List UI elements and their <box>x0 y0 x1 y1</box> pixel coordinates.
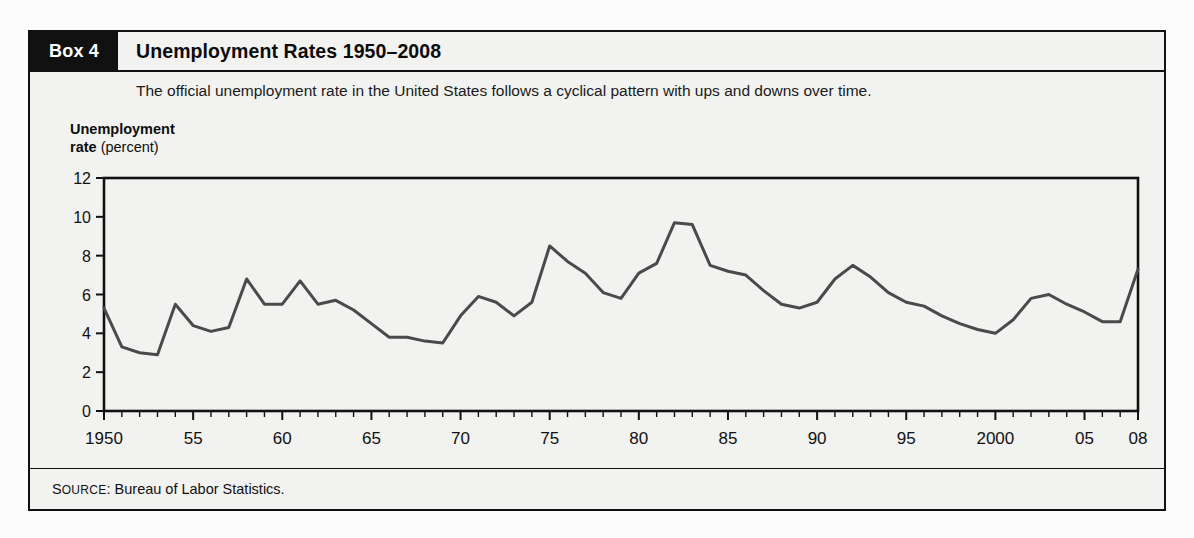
svg-text:75: 75 <box>540 429 559 448</box>
svg-text:95: 95 <box>897 429 916 448</box>
data-line-series <box>104 223 1138 355</box>
svg-text:85: 85 <box>719 429 738 448</box>
svg-text:8: 8 <box>82 248 91 265</box>
unemployment-line-chart: 024681012 195055606570758085909520000508 <box>30 32 1164 509</box>
source-label-rest: OURCE <box>62 483 107 497</box>
svg-text:0: 0 <box>82 403 91 420</box>
svg-text:55: 55 <box>184 429 203 448</box>
svg-text:80: 80 <box>629 429 648 448</box>
x-axis-ticks <box>104 411 1138 420</box>
svg-text:10: 10 <box>73 209 91 226</box>
svg-text:60: 60 <box>273 429 292 448</box>
svg-text:2: 2 <box>82 364 91 381</box>
box-container: Box 4 Unemployment Rates 1950–2008 The o… <box>28 30 1166 511</box>
svg-text:05: 05 <box>1075 429 1094 448</box>
svg-text:6: 6 <box>82 287 91 304</box>
scanned-page: Box 4 Unemployment Rates 1950–2008 The o… <box>0 0 1194 538</box>
svg-text:08: 08 <box>1129 429 1148 448</box>
source-colon: : <box>107 481 111 497</box>
source-value: Bureau of Labor Statistics. <box>115 481 285 497</box>
svg-text:12: 12 <box>73 170 91 187</box>
chart-area: 024681012 195055606570758085909520000508 <box>30 32 1164 509</box>
svg-text:70: 70 <box>451 429 470 448</box>
y-axis-tick-labels: 024681012 <box>73 170 91 420</box>
svg-text:65: 65 <box>362 429 381 448</box>
svg-text:4: 4 <box>82 325 91 342</box>
source-label-cap: S <box>52 481 62 497</box>
source-note: SOURCE: Bureau of Labor Statistics. <box>52 481 285 497</box>
x-axis-tick-labels: 195055606570758085909520000508 <box>85 429 1147 448</box>
svg-text:2000: 2000 <box>976 429 1014 448</box>
svg-text:90: 90 <box>808 429 827 448</box>
svg-text:1950: 1950 <box>85 429 123 448</box>
source-divider <box>30 468 1164 469</box>
